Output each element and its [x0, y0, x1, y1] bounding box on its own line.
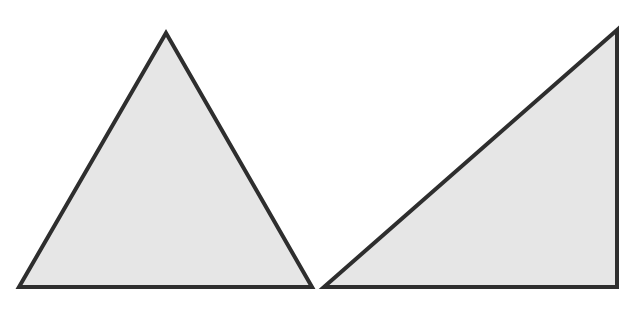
- diagram-canvas: [0, 0, 640, 309]
- isosceles-triangle: [19, 33, 312, 287]
- triangles-figure: [0, 0, 640, 309]
- right-triangle: [324, 30, 617, 287]
